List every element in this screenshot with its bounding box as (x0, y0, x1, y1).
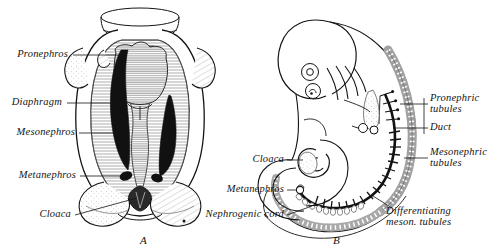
label-differentiating-line2: meson. tubules (386, 216, 451, 227)
label-pronephric-tubules: Pronephric tubules (430, 92, 479, 115)
figure-plate: Pronephros Diaphragm Mesonephros Metanep… (0, 0, 489, 252)
label-cloaca: Cloaca (39, 208, 71, 220)
label-mesonephric-tubules-line1: Mesonephric (430, 146, 487, 157)
panel-a-drawing (65, 8, 215, 226)
label-diaphragm: Diaphragm (12, 96, 62, 108)
mesonephros-body-b (352, 90, 379, 134)
label-differentiating-line1: Differentiating (386, 205, 451, 216)
label-mesonephric-tubules-line2: tubules (430, 157, 487, 168)
nephric-duct (300, 94, 395, 208)
ventral-neck-contour (292, 94, 299, 160)
label-pronephric-tubules-line2: tubules (430, 103, 479, 114)
panel-letter-a: A (140, 234, 147, 246)
label-duct: Duct (430, 121, 451, 133)
cut-neck (101, 8, 179, 34)
label-mesonephric-tubules: Mesonephric tubules (430, 146, 487, 169)
eye (302, 64, 319, 81)
label-differentiating-meson-tubules: Differentiating meson. tubules (386, 205, 451, 228)
panel-letter-b: B (333, 234, 340, 246)
label-nephrogenic-cord: Nephrogenic cord (205, 208, 284, 220)
label-pronephros: Pronephros (17, 48, 68, 60)
label-metanephros-b: Metanephros (227, 183, 284, 195)
label-mesonephros: Mesonephros (17, 126, 75, 138)
metanephros-bud-b (296, 185, 304, 194)
otic-vesicle (306, 84, 321, 99)
label-metanephros: Metanephros (19, 169, 76, 181)
label-pronephric-tubules-line1: Pronephric (430, 92, 479, 103)
label-cloaca-b: Cloaca (252, 153, 284, 165)
